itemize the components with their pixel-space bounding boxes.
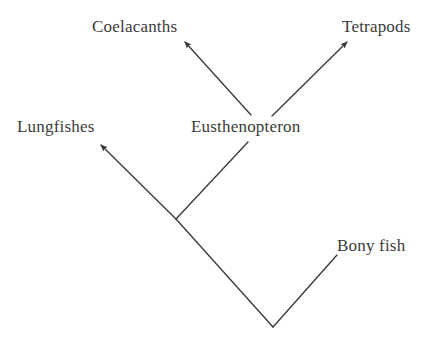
- taxon-label-tetrapods: Tetrapods: [342, 18, 411, 35]
- branch-inner-node-to-lungfishes: [101, 145, 176, 219]
- branch-root-to-inner-node: [176, 219, 273, 327]
- taxon-label-coelacanths: Coelacanths: [92, 18, 177, 35]
- taxon-label-bony-fish: Bony fish: [337, 237, 405, 254]
- branch-eusthenopteron-to-tetrapods: [272, 42, 347, 116]
- taxon-label-lungfishes: Lungfishes: [17, 118, 95, 135]
- branch-eusthenopteron-to-coelacanths: [185, 42, 251, 115]
- branch-inner-node-to-eusthenopteron: [176, 142, 248, 219]
- taxon-label-eusthenopteron: Eusthenopteron: [191, 118, 301, 135]
- cladogram-lines: [0, 0, 437, 343]
- cladogram-diagram: Coelacanths Tetrapods Lungfishes Eusthen…: [0, 0, 437, 343]
- branch-root-to-bony-fish: [273, 255, 337, 327]
